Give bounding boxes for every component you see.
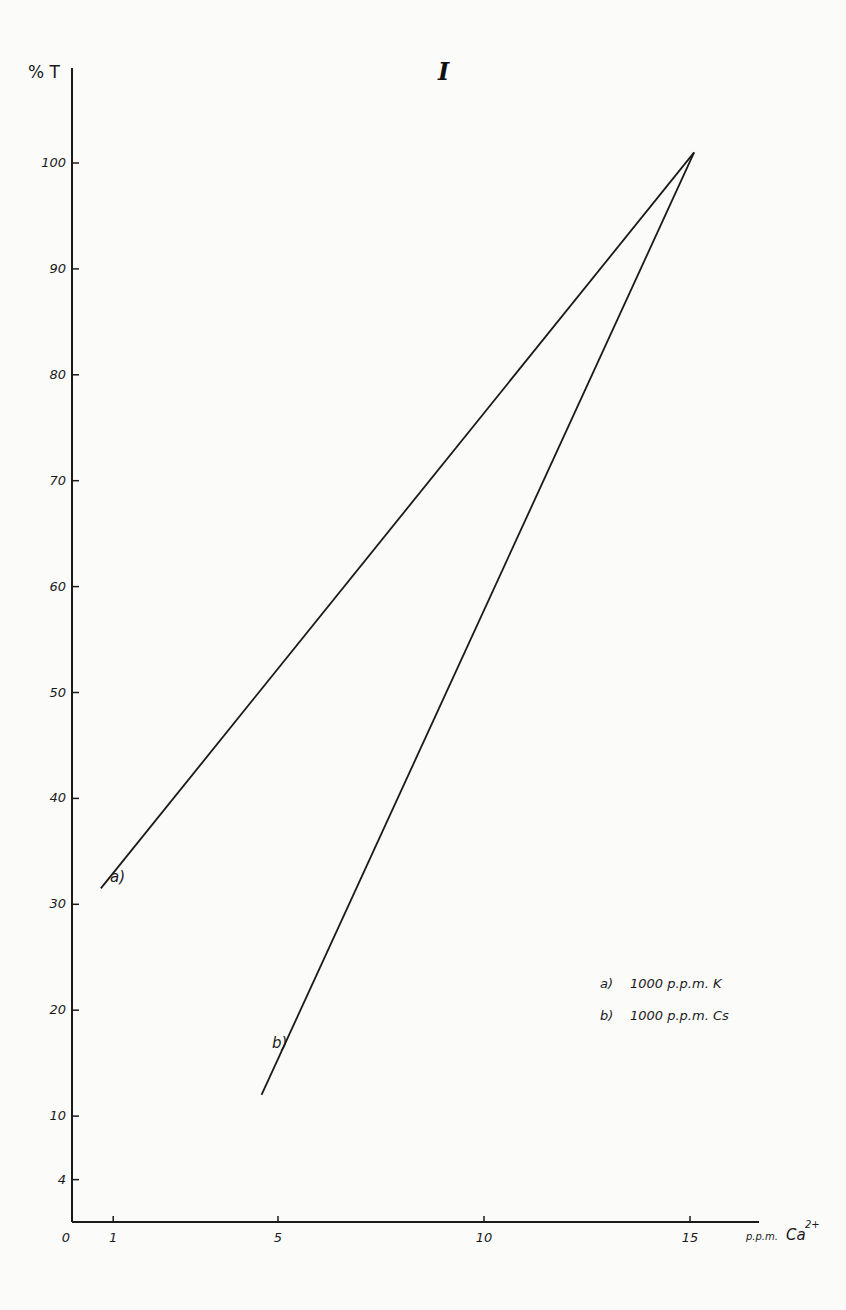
series-group: a)b) bbox=[101, 152, 694, 1095]
x-tick-label: 0 bbox=[62, 1230, 70, 1245]
series-label-b: b) bbox=[272, 1034, 287, 1052]
y-tick-label: 10 bbox=[49, 1108, 66, 1123]
series-line-a bbox=[101, 152, 694, 888]
y-tick-label: 70 bbox=[49, 473, 66, 488]
y-tick-label: 30 bbox=[49, 896, 66, 911]
x-axis-title: Ca bbox=[786, 1226, 806, 1244]
y-tick-label: 90 bbox=[49, 261, 66, 276]
series-line-b bbox=[262, 152, 695, 1095]
legend-key: a) bbox=[600, 976, 613, 991]
legend: a)1000 p.p.m. Kb)1000 p.p.m. Cs bbox=[600, 976, 729, 1023]
legend-key: b) bbox=[600, 1008, 613, 1023]
x-ticks: 0151015 bbox=[62, 1216, 698, 1245]
figure-title: I bbox=[437, 57, 450, 86]
y-tick-label: 50 bbox=[49, 685, 66, 700]
x-tick-label: 5 bbox=[274, 1230, 282, 1245]
x-tick-label: 1 bbox=[109, 1230, 117, 1245]
y-axis-title: % T bbox=[28, 62, 61, 82]
y-tick-label: 20 bbox=[49, 1002, 66, 1017]
y-tick-label: 60 bbox=[49, 579, 66, 594]
y-ticks: 4102030405060708090100 bbox=[41, 155, 79, 1187]
y-tick-label: 4 bbox=[58, 1172, 66, 1187]
x-tick-label: 15 bbox=[682, 1230, 699, 1245]
y-tick-label: 80 bbox=[49, 367, 66, 382]
y-tick-label: 40 bbox=[49, 790, 66, 805]
x-tick-label: 10 bbox=[476, 1230, 493, 1245]
legend-entry-text: 1000 p.p.m. Cs bbox=[630, 1008, 729, 1023]
legend-entry-text: 1000 p.p.m. K bbox=[630, 976, 723, 991]
x-axis-unit-ppm: p.p.m. bbox=[745, 1231, 778, 1242]
y-tick-label: 100 bbox=[41, 155, 66, 170]
x-axis-title-sup: 2+ bbox=[805, 1219, 820, 1230]
series-label-a: a) bbox=[110, 868, 125, 886]
chart: I % T 4102030405060708090100 0151015 p.p… bbox=[0, 0, 846, 1310]
axes bbox=[72, 68, 759, 1222]
